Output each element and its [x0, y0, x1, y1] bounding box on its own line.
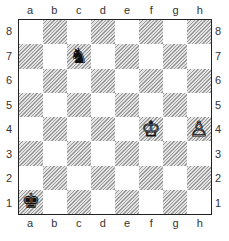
rank-label-3: 3 [6, 148, 12, 160]
square-a5[interactable] [19, 93, 43, 117]
rank-labels-right: 87654321 [215, 19, 221, 215]
square-d1[interactable] [91, 190, 115, 214]
square-b5[interactable] [43, 93, 67, 117]
square-c4[interactable] [67, 117, 91, 141]
rank-label-6: 6 [215, 74, 221, 86]
square-h6[interactable] [187, 69, 211, 93]
square-b4[interactable] [43, 117, 67, 141]
square-g1[interactable] [163, 190, 187, 214]
square-h8[interactable] [187, 20, 211, 44]
file-label-c: c [67, 217, 91, 229]
square-e6[interactable] [115, 69, 139, 93]
square-b8[interactable] [43, 20, 67, 44]
square-e2[interactable] [115, 166, 139, 190]
square-g6[interactable] [163, 69, 187, 93]
square-d4[interactable] [91, 117, 115, 141]
square-d5[interactable] [91, 93, 115, 117]
file-label-h: h [188, 217, 212, 229]
rank-label-2: 2 [215, 172, 221, 184]
square-a3[interactable] [19, 141, 43, 165]
square-g8[interactable] [163, 20, 187, 44]
square-f2[interactable] [139, 166, 163, 190]
square-d8[interactable] [91, 20, 115, 44]
square-h3[interactable] [187, 141, 211, 165]
square-a4[interactable] [19, 117, 43, 141]
square-h7[interactable] [187, 44, 211, 68]
chessboard: ♞♔♙♚ [18, 19, 212, 215]
rank-label-7: 7 [215, 50, 221, 62]
file-label-f: f [139, 4, 163, 16]
rank-label-1: 1 [215, 197, 221, 209]
rank-label-6: 6 [6, 74, 12, 86]
square-f6[interactable] [139, 69, 163, 93]
square-a8[interactable] [19, 20, 43, 44]
square-c7[interactable]: ♞ [67, 44, 91, 68]
file-label-e: e [115, 4, 139, 16]
square-h1[interactable] [187, 190, 211, 214]
square-h2[interactable] [187, 166, 211, 190]
black-knight-icon[interactable]: ♞ [67, 44, 91, 68]
rank-label-5: 5 [6, 99, 12, 111]
rank-label-7: 7 [6, 50, 12, 62]
square-a6[interactable] [19, 69, 43, 93]
file-label-g: g [164, 4, 188, 16]
square-c6[interactable] [67, 69, 91, 93]
square-f3[interactable] [139, 141, 163, 165]
file-label-c: c [67, 4, 91, 16]
square-g4[interactable] [163, 117, 187, 141]
square-e1[interactable] [115, 190, 139, 214]
square-e4[interactable] [115, 117, 139, 141]
file-label-b: b [42, 217, 66, 229]
rank-label-8: 8 [215, 25, 221, 37]
square-g5[interactable] [163, 93, 187, 117]
file-labels-top: abcdefgh [18, 4, 212, 16]
white-king-icon[interactable]: ♔ [139, 117, 163, 141]
square-a7[interactable] [19, 44, 43, 68]
square-g2[interactable] [163, 166, 187, 190]
square-c2[interactable] [67, 166, 91, 190]
square-a2[interactable] [19, 166, 43, 190]
file-label-g: g [164, 217, 188, 229]
square-f5[interactable] [139, 93, 163, 117]
file-label-f: f [139, 217, 163, 229]
square-h4[interactable]: ♙ [187, 117, 211, 141]
square-b2[interactable] [43, 166, 67, 190]
square-f1[interactable] [139, 190, 163, 214]
square-c8[interactable] [67, 20, 91, 44]
white-pawn-icon[interactable]: ♙ [187, 117, 211, 141]
square-c5[interactable] [67, 93, 91, 117]
square-g3[interactable] [163, 141, 187, 165]
file-labels-bottom: abcdefgh [18, 217, 212, 229]
file-label-h: h [188, 4, 212, 16]
square-f4[interactable]: ♔ [139, 117, 163, 141]
square-f8[interactable] [139, 20, 163, 44]
rank-label-3: 3 [215, 148, 221, 160]
black-king-icon[interactable]: ♚ [19, 190, 43, 214]
square-f7[interactable] [139, 44, 163, 68]
square-d7[interactable] [91, 44, 115, 68]
square-e3[interactable] [115, 141, 139, 165]
file-label-a: a [18, 4, 42, 16]
square-c1[interactable] [67, 190, 91, 214]
square-b7[interactable] [43, 44, 67, 68]
square-e8[interactable] [115, 20, 139, 44]
square-b3[interactable] [43, 141, 67, 165]
square-b1[interactable] [43, 190, 67, 214]
file-label-d: d [91, 4, 115, 16]
file-label-b: b [42, 4, 66, 16]
rank-label-4: 4 [6, 123, 12, 135]
rank-label-2: 2 [6, 172, 12, 184]
square-h5[interactable] [187, 93, 211, 117]
square-d2[interactable] [91, 166, 115, 190]
square-g7[interactable] [163, 44, 187, 68]
square-b6[interactable] [43, 69, 67, 93]
square-d3[interactable] [91, 141, 115, 165]
square-a1[interactable]: ♚ [19, 190, 43, 214]
square-e7[interactable] [115, 44, 139, 68]
rank-labels-left: 87654321 [6, 19, 12, 215]
file-label-d: d [91, 217, 115, 229]
square-d6[interactable] [91, 69, 115, 93]
rank-label-5: 5 [215, 99, 221, 111]
square-e5[interactable] [115, 93, 139, 117]
square-c3[interactable] [67, 141, 91, 165]
